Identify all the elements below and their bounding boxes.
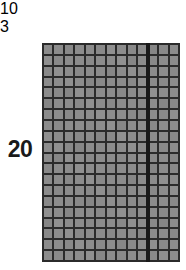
unit-square xyxy=(43,250,53,261)
unit-square xyxy=(74,250,84,261)
unit-square xyxy=(64,66,74,77)
unit-square xyxy=(64,163,74,174)
unit-square xyxy=(74,207,84,218)
unit-square xyxy=(74,163,84,174)
unit-square xyxy=(158,87,168,98)
unit-square xyxy=(74,218,84,229)
unit-square xyxy=(169,142,179,153)
unit-square xyxy=(169,174,179,185)
unit-square xyxy=(85,98,95,109)
unit-square xyxy=(127,87,137,98)
unit-square xyxy=(127,196,137,207)
unit-square xyxy=(106,207,116,218)
unit-square xyxy=(74,44,84,55)
unit-square xyxy=(95,109,105,120)
unit-square xyxy=(158,153,168,164)
unit-square xyxy=(85,87,95,98)
unit-square xyxy=(116,153,126,164)
unit-square xyxy=(53,174,63,185)
unit-square xyxy=(85,250,95,261)
unit-square xyxy=(137,163,147,174)
unit-square xyxy=(137,66,147,77)
unit-square xyxy=(137,55,147,66)
unit-square xyxy=(53,120,63,131)
unit-square xyxy=(106,131,116,142)
unit-square xyxy=(106,218,116,229)
unit-square xyxy=(64,131,74,142)
unit-square xyxy=(53,142,63,153)
unit-square xyxy=(43,120,53,131)
unit-square xyxy=(106,142,116,153)
unit-square xyxy=(106,55,116,66)
grid-container xyxy=(42,43,180,262)
unit-square xyxy=(64,218,74,229)
unit-square xyxy=(137,250,147,261)
unit-square xyxy=(53,44,63,55)
unit-square xyxy=(116,44,126,55)
unit-square xyxy=(127,153,137,164)
unit-square xyxy=(137,98,147,109)
unit-square xyxy=(53,55,63,66)
unit-square xyxy=(53,87,63,98)
unit-square xyxy=(106,109,116,120)
unit-square xyxy=(158,120,168,131)
unit-square xyxy=(74,109,84,120)
unit-square xyxy=(137,218,147,229)
unit-square xyxy=(43,66,53,77)
unit-square xyxy=(169,207,179,218)
unit-square xyxy=(85,131,95,142)
unit-square xyxy=(106,239,116,250)
unit-square xyxy=(106,120,116,131)
unit-square xyxy=(64,142,74,153)
unit-square xyxy=(53,218,63,229)
unit-square xyxy=(43,207,53,218)
unit-square xyxy=(169,228,179,239)
unit-square xyxy=(169,153,179,164)
unit-square xyxy=(53,228,63,239)
unit-square xyxy=(43,218,53,229)
column-group-label-10: 10 xyxy=(0,0,34,18)
unit-square xyxy=(106,163,116,174)
unit-square xyxy=(127,77,137,88)
unit-square xyxy=(53,239,63,250)
unit-square xyxy=(137,207,147,218)
unit-square xyxy=(53,250,63,261)
unit-square xyxy=(106,196,116,207)
unit-square xyxy=(85,44,95,55)
unit-square xyxy=(106,153,116,164)
unit-square xyxy=(148,153,158,164)
unit-square xyxy=(158,196,168,207)
unit-square xyxy=(53,77,63,88)
unit-square xyxy=(127,98,137,109)
unit-square xyxy=(148,87,158,98)
unit-square xyxy=(53,185,63,196)
unit-square xyxy=(43,153,53,164)
unit-square xyxy=(95,153,105,164)
unit-square xyxy=(116,87,126,98)
unit-square xyxy=(106,66,116,77)
unit-square xyxy=(74,131,84,142)
unit-square xyxy=(43,196,53,207)
unit-square xyxy=(116,239,126,250)
unit-square xyxy=(127,250,137,261)
unit-square xyxy=(74,239,84,250)
unit-square xyxy=(85,142,95,153)
unit-square xyxy=(95,77,105,88)
unit-square xyxy=(64,228,74,239)
unit-square xyxy=(127,44,137,55)
unit-square xyxy=(137,142,147,153)
unit-square xyxy=(43,98,53,109)
unit-square xyxy=(74,142,84,153)
unit-square xyxy=(53,98,63,109)
unit-square xyxy=(116,250,126,261)
unit-square xyxy=(137,87,147,98)
unit-square xyxy=(137,174,147,185)
unit-square xyxy=(116,109,126,120)
unit-square xyxy=(95,185,105,196)
unit-square xyxy=(158,163,168,174)
unit-square xyxy=(53,163,63,174)
unit-square xyxy=(127,207,137,218)
unit-square xyxy=(148,66,158,77)
unit-square xyxy=(106,185,116,196)
unit-square xyxy=(148,142,158,153)
